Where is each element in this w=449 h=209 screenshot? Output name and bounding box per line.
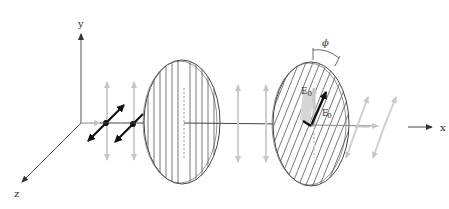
x-axis-label: x (440, 122, 446, 133)
polarizer-1 (143, 55, 220, 190)
coordinate-axes: y z x (14, 18, 446, 199)
incident-wave-arrows (107, 82, 134, 160)
angle-phi-indicator: ϕ (313, 37, 340, 66)
y-axis-label: y (77, 18, 84, 29)
diagram-canvas: y z x (0, 0, 449, 209)
polarizer-2: E0 E′0 (230, 50, 388, 200)
polarization-diagram: y z x (0, 0, 449, 209)
phi-label: ϕ (322, 37, 329, 48)
z-axis-label: z (14, 188, 19, 199)
z-axis (22, 123, 81, 182)
transmitted-wave-arrows (346, 97, 396, 158)
